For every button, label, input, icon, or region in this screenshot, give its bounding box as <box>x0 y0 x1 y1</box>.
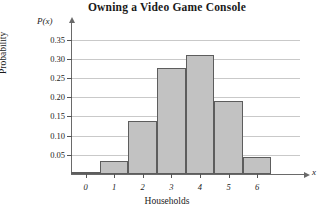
y-axis-tick <box>67 97 72 98</box>
bar <box>100 161 129 174</box>
plot-area: 0.050.100.150.200.250.300.35 0123456 <box>71 30 307 174</box>
y-axis-tick <box>67 155 72 156</box>
x-axis-tick-label: 3 <box>169 182 173 192</box>
x-axis-tick-label: 6 <box>255 182 259 192</box>
x-axis-tick-label: 0 <box>83 182 87 192</box>
y-axis-variable-label: P(x) <box>37 16 53 26</box>
y-axis-tick <box>67 40 72 41</box>
y-axis-tick-label: 0.05 <box>50 150 65 160</box>
y-axis-tick-label: 0.15 <box>50 111 65 121</box>
y-axis-tick <box>67 59 72 60</box>
x-axis-tick-label: 4 <box>198 182 202 192</box>
y-axis-tick-label: 0.10 <box>50 131 65 141</box>
x-axis-tick <box>86 174 87 178</box>
x-axis-tick-label: 5 <box>226 182 230 192</box>
x-axis-tick <box>143 174 144 178</box>
x-axis-tick <box>229 174 230 178</box>
bar <box>128 121 157 174</box>
y-axis-tick <box>67 116 72 117</box>
x-axis-tick <box>171 174 172 178</box>
x-axis-variable-label: x <box>312 167 316 177</box>
y-axis-tick-label: 0.25 <box>50 73 65 83</box>
bar <box>186 55 215 174</box>
chart-title: Owning a Video Game Console <box>0 1 334 13</box>
y-axis-tick-label: 0.35 <box>50 35 65 45</box>
y-axis-tick <box>67 78 72 79</box>
bar <box>157 68 186 174</box>
chart-figure: Owning a Video Game Console P(x) x Proba… <box>0 0 334 222</box>
x-axis-tick <box>257 174 258 178</box>
x-axis-tick-label: 2 <box>141 182 145 192</box>
y-axis-tick-label: 0.30 <box>50 54 65 64</box>
y-axis-tick <box>67 136 72 137</box>
x-axis-title: Households <box>0 196 334 206</box>
bar <box>214 101 243 174</box>
x-axis-arrow <box>304 172 310 178</box>
x-axis-tick <box>114 174 115 178</box>
x-axis-line <box>71 174 304 175</box>
y-axis-tick-label: 0.20 <box>50 92 65 102</box>
x-axis-tick-label: 1 <box>112 182 116 192</box>
y-axis-title: Probability <box>0 32 8 74</box>
bar <box>243 157 272 174</box>
x-axis-tick <box>200 174 201 178</box>
y-axis-arrow <box>69 17 75 23</box>
gridline <box>71 40 300 41</box>
